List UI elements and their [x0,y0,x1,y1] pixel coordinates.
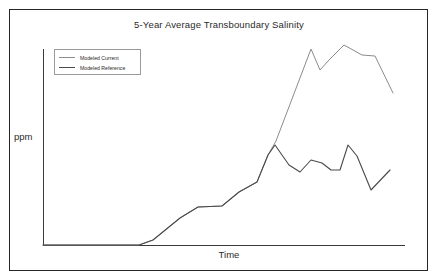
series-line-modeled-current [43,45,393,245]
legend-color-swatch-reference [59,67,75,68]
legend-item-modeled-reference: Modeled Reference [59,63,136,72]
plot-area [0,0,438,280]
legend-label-modeled-current: Modeled Current [80,55,119,61]
series-line-modeled-reference [43,145,390,245]
legend-label-modeled-reference: Modeled Reference [80,65,125,71]
legend-color-swatch-current [59,57,75,58]
legend-item-modeled-current: Modeled Current [59,53,136,62]
chart-legend: Modeled Current Modeled Reference [54,49,141,75]
chart-figure: 5-Year Average Transboundary Salinity pp… [0,0,438,280]
